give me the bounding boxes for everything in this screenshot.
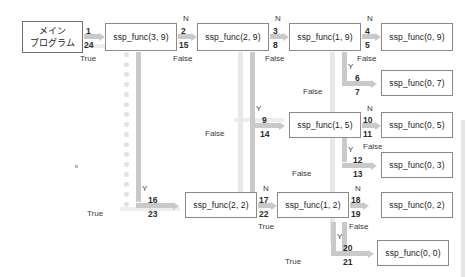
result-label-17: True [258, 222, 274, 231]
result-label-1: True [80, 54, 96, 63]
result-label-20: True [285, 257, 301, 266]
node-label: ssp_func(2, 2) [193, 200, 248, 211]
main-program-line2: プログラム [30, 37, 76, 49]
node-ssp-func-0-7: ssp_func(0, 7) [381, 70, 453, 96]
return-number-24: 24 [84, 40, 93, 50]
return-number-13: 13 [353, 169, 362, 179]
node-label: ssp_func(0, 3) [389, 160, 444, 171]
node-ssp-func-2-2: ssp_func(2, 2) [185, 192, 257, 218]
result-label-4: False [357, 54, 377, 63]
branch-label-17: N [263, 184, 269, 193]
branch-label-9: Y [256, 104, 261, 113]
result-label-6: False [303, 87, 323, 96]
node-label: ssp_func(2, 9) [205, 32, 260, 43]
call-number-12: 12 [353, 155, 362, 165]
call-number-6: 6 [355, 73, 360, 83]
return-number-19: 19 [351, 209, 360, 219]
return-number-22: 22 [259, 209, 268, 219]
result-label-18: False [349, 222, 369, 231]
call-number-9: 9 [262, 115, 267, 125]
artifact-speck [75, 165, 78, 168]
runner-vertical-col2-faint [238, 52, 243, 192]
node-ssp-func-0-5: ssp_func(0, 5) [381, 112, 453, 138]
node-label: ssp_func(0, 2) [389, 200, 444, 211]
call-number-18: 18 [351, 195, 360, 205]
node-ssp-func-0-9: ssp_func(0, 9) [381, 23, 453, 51]
branch-label-10: N [367, 104, 373, 113]
node-ssp-func-2-9: ssp_func(2, 9) [197, 23, 269, 51]
result-label-16: True [87, 209, 103, 218]
runner-vertical-col1 [136, 52, 141, 202]
node-ssp-func-3-9: ssp_func(3, 9) [105, 23, 177, 51]
branch-label-3: N [275, 14, 281, 23]
branch-label-12: Y [348, 145, 353, 154]
call-number-20: 20 [343, 243, 352, 253]
branch-label-6: Y [348, 62, 353, 71]
branch-label-4: N [367, 14, 373, 23]
node-label: ssp_func(0, 5) [389, 120, 444, 131]
node-label: ssp_func(0, 9) [389, 32, 444, 43]
call-number-17: 17 [259, 195, 268, 205]
call-number-4: 4 [365, 26, 370, 36]
node-label: ssp_func(1, 2) [285, 200, 340, 211]
node-label: ssp_func(1, 5) [297, 120, 352, 131]
node-ssp-func-1-2: ssp_func(1, 2) [277, 192, 349, 218]
result-label-12: False [292, 169, 312, 178]
node-ssp-func-1-9: ssp_func(1, 9) [289, 23, 361, 51]
result-label-10: False [363, 142, 383, 151]
return-number-15: 15 [179, 40, 188, 50]
node-main-program: メイン プログラム [22, 21, 83, 53]
node-label: ssp_func(1, 9) [297, 32, 352, 43]
runner-vertical-dotted-col1 [124, 52, 129, 207]
main-program-line1: メイン [30, 25, 76, 37]
return-number-14: 14 [260, 129, 269, 139]
result-label-2: False [173, 54, 193, 63]
node-ssp-func-0-3: ssp_func(0, 3) [381, 152, 453, 178]
branch-label-20: Y [337, 232, 342, 241]
branch-label-18: N [355, 184, 361, 193]
call-number-16: 16 [148, 195, 157, 205]
node-ssp-func-0-0: ssp_func(0, 0) [377, 240, 449, 266]
call-number-1: 1 [86, 26, 91, 36]
rail-right-edge [461, 120, 465, 277]
result-label-9: False [205, 129, 225, 138]
call-number-2: 2 [181, 26, 186, 36]
return-number-11: 11 [363, 129, 372, 139]
branch-label-2: N [183, 14, 189, 23]
node-label: ssp_func(3, 9) [113, 32, 168, 43]
call-trace-diagram: メイン プログラム 1 24 True ssp_func(3, 9) N 2 1… [0, 0, 467, 277]
return-number-23: 23 [148, 209, 157, 219]
call-number-3: 3 [273, 26, 278, 36]
call-number-10: 10 [363, 115, 372, 125]
node-label: ssp_func(0, 7) [389, 78, 444, 89]
node-label: ssp_func(0, 0) [385, 248, 440, 259]
result-label-3: False [265, 54, 285, 63]
return-number-21: 21 [343, 257, 352, 267]
branch-label-16: Y [142, 184, 147, 193]
return-number-7: 7 [355, 87, 360, 97]
return-number-5: 5 [365, 40, 370, 50]
return-number-8: 8 [273, 40, 278, 50]
node-ssp-func-0-2: ssp_func(0, 2) [381, 192, 453, 218]
runner-vertical-call-20 [331, 222, 336, 254]
node-ssp-func-1-5: ssp_func(1, 5) [289, 112, 361, 138]
